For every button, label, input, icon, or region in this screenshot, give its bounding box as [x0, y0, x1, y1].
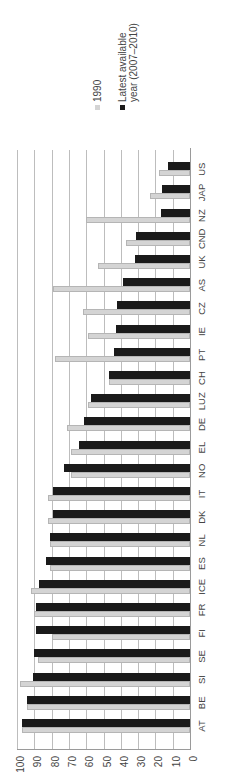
bar-latest-AS: [123, 278, 190, 286]
category-label: ICE: [196, 576, 207, 598]
gridline: [34, 150, 35, 750]
bar-latest-DE: [84, 417, 190, 425]
category-label: SI: [196, 669, 207, 691]
y-tick-label: 30: [137, 756, 147, 776]
category-label: LUZ: [196, 390, 207, 412]
bar-1990-ICE: [31, 588, 190, 594]
bar-1990-ES: [50, 565, 190, 571]
y-tick-label: 20: [154, 756, 164, 776]
bar-latest-CZ: [117, 301, 190, 309]
category-label: NO: [196, 460, 207, 482]
legend: 1990 Latest available year (2007–2010): [92, 23, 153, 110]
category-label: CND: [196, 228, 207, 250]
category-label: SE: [196, 645, 207, 667]
chart: 0102030405060708090100 ATBESISEFIFRICEES…: [0, 0, 227, 778]
category-label: DK: [196, 506, 207, 528]
bar-1990-AT: [22, 727, 190, 733]
bar-latest-IT: [53, 487, 190, 495]
y-axis: [17, 749, 190, 750]
bar-latest-SE: [34, 649, 190, 657]
category-label: JAP: [196, 181, 207, 203]
y-tick-label: 90: [33, 756, 43, 776]
y-tick-label: 100: [16, 756, 26, 776]
legend-item-latest: Latest available year (2007–2010): [117, 23, 139, 110]
bar-1990-FR: [34, 611, 190, 617]
bar-1990-IE: [88, 333, 190, 339]
bar-latest-JAP: [162, 185, 190, 193]
bar-1990-NO: [71, 472, 190, 478]
y-tick-label: 60: [85, 756, 95, 776]
bar-1990-NZ: [86, 217, 190, 223]
category-label: FR: [196, 599, 207, 621]
bar-1990-CH: [109, 379, 190, 385]
bar-1990-EL: [71, 449, 190, 455]
bar-1990-SI: [20, 681, 190, 687]
y-tick-label: 40: [120, 756, 130, 776]
bar-1990-NL: [50, 541, 190, 547]
legend-item-1990: 1990: [92, 23, 103, 110]
category-label: NZ: [196, 205, 207, 227]
bar-1990-UK: [98, 263, 190, 269]
bar-latest-PT: [114, 348, 190, 356]
bar-latest-UK: [135, 255, 190, 263]
bar-latest-BE: [27, 696, 190, 704]
bar-1990-DK: [48, 518, 190, 524]
bar-latest-CND: [136, 232, 190, 240]
bar-latest-ES: [46, 557, 190, 565]
bar-1990-LUZ: [88, 402, 190, 408]
bar-latest-SI: [33, 673, 190, 681]
bar-latest-IE: [116, 325, 190, 333]
category-label: PT: [196, 344, 207, 366]
category-label: BE: [196, 692, 207, 714]
bar-1990-JAP: [150, 193, 190, 199]
category-label: AT: [196, 715, 207, 737]
bar-1990-IT: [48, 495, 190, 501]
bar-1990-BE: [27, 704, 190, 710]
category-label: CZ: [196, 297, 207, 319]
y-tick-label: 50: [103, 756, 113, 776]
bar-1990-CND: [126, 240, 190, 246]
y-tick-label: 80: [51, 756, 61, 776]
y-tick-label: 0: [189, 756, 199, 776]
category-label: UK: [196, 251, 207, 273]
bar-latest-FI: [36, 626, 190, 634]
bar-latest-US: [168, 162, 190, 170]
legend-label: 1990: [92, 80, 103, 102]
category-label: AS: [196, 274, 207, 296]
x-axis: [190, 148, 191, 750]
legend-label: Latest available year (2007–2010): [117, 23, 139, 102]
category-label: CH: [196, 367, 207, 389]
y-tick-label: 70: [68, 756, 78, 776]
legend-swatch-dark: [120, 105, 125, 110]
category-label: US: [196, 158, 207, 180]
bar-latest-LUZ: [91, 394, 190, 402]
bar-1990-SE: [38, 657, 190, 663]
y-tick-label: 10: [172, 756, 182, 776]
legend-swatch-light: [95, 105, 100, 110]
bar-1990-CZ: [83, 309, 190, 315]
bar-1990-FI: [52, 634, 190, 640]
bar-latest-AT: [22, 719, 190, 727]
category-label: DE: [196, 413, 207, 435]
bar-latest-NZ: [161, 209, 190, 217]
category-label: IE: [196, 321, 207, 343]
bar-latest-DK: [53, 510, 190, 518]
bar-latest-EL: [79, 441, 190, 449]
category-label: EL: [196, 437, 207, 459]
bar-latest-NL: [50, 533, 190, 541]
category-label: FI: [196, 622, 207, 644]
category-label: NL: [196, 529, 207, 551]
category-label: ES: [196, 553, 207, 575]
bar-latest-FR: [36, 603, 190, 611]
category-label: IT: [196, 483, 207, 505]
bar-1990-PT: [55, 356, 190, 362]
gridline: [17, 150, 18, 750]
bar-latest-NO: [64, 464, 190, 472]
bar-1990-US: [159, 170, 190, 176]
bar-latest-CH: [109, 371, 190, 379]
bar-1990-AS: [53, 286, 190, 292]
bar-1990-DE: [67, 425, 190, 431]
bar-latest-ICE: [39, 580, 190, 588]
